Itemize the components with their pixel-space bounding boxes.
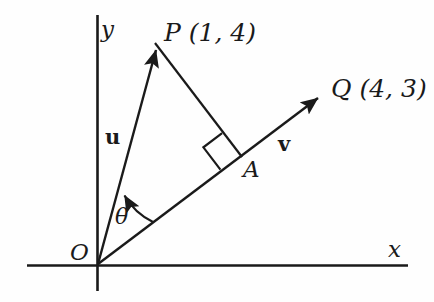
vector-label-v: v <box>278 133 290 154</box>
origin-label: O <box>70 241 89 264</box>
y-axis-label: y <box>101 18 114 41</box>
angle-arc-theta <box>125 196 154 223</box>
x-axis-label: x <box>388 238 401 261</box>
point-label-A: A <box>243 158 260 181</box>
point-label-P: P (1, 4) <box>164 20 256 45</box>
angle-label-theta: θ <box>115 206 128 228</box>
vector-label-u: u <box>105 126 120 147</box>
vector-u-line <box>98 50 156 264</box>
vector-projection-figure: P (1, 4) Q (4, 3) A O x y u v θ <box>0 0 434 302</box>
segment-PA <box>155 43 242 157</box>
vector-v-line <box>98 98 318 264</box>
point-label-Q: Q (4, 3) <box>331 76 427 101</box>
right-angle-marker <box>203 133 222 169</box>
